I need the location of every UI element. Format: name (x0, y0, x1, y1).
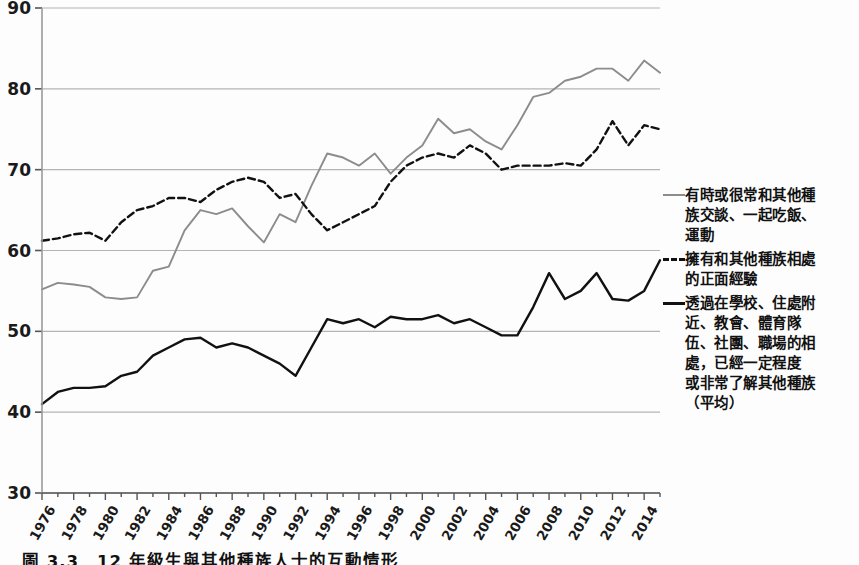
x-axis-tick-label: 1978 (58, 503, 91, 544)
y-axis-tick-label: 60 (7, 241, 31, 261)
x-axis-tick-label: 1976 (26, 503, 59, 544)
x-axis-tick-label: 1990 (248, 503, 281, 544)
y-axis-tick-label: 70 (7, 160, 31, 180)
legend-item-talk-eat-sports: 有時或很常和其他種 族交談、一起吃飯、 運動 (663, 185, 859, 245)
y-axis-tick-label: 30 (7, 483, 31, 503)
x-axis-tick-label: 2000 (406, 503, 439, 544)
y-axis-tick-label: 40 (7, 402, 31, 422)
x-axis-tick-label: 1986 (184, 503, 217, 544)
legend-item-label: 擁有和其他種族相處 (685, 251, 816, 267)
legend-item-label: 伍、社團、職場的相 (685, 335, 816, 351)
x-axis-tick-label: 1994 (311, 503, 344, 544)
data-series-group (42, 61, 660, 405)
x-axis-tick-label: 1982 (121, 503, 154, 544)
figure-caption: 圖 3.3 12 年級生與其他種族人士的互動情形 (22, 548, 722, 565)
legend-item-label: 的正面經驗 (685, 271, 758, 287)
data-series-line-0 (42, 61, 660, 299)
x-axis-tick-label: 1988 (216, 503, 249, 544)
y-axis-tick-labels-group: 30405060708090 (7, 0, 31, 503)
x-axis-tick-label: 2008 (533, 503, 566, 544)
legend-item-label: （平均） (685, 395, 743, 411)
chart-legend: 有時或很常和其他種 族交談、一起吃飯、 運動 擁有和其他種族相處 的正面經驗 透… (663, 185, 859, 417)
legend-item-knowing-other-races: 透過在學校、住處附 近、教會、體育隊 伍、社團、職場的相 處，已經一定程度 或非… (663, 293, 859, 413)
x-axis-tick-label: 2002 (438, 503, 471, 544)
y-axis-tick-label: 50 (7, 321, 31, 341)
legend-item-label: 運動 (685, 227, 714, 243)
legend-item-label: 族交談、一起吃飯、 (685, 207, 816, 223)
y-axis-tick-label: 80 (7, 79, 31, 99)
legend-item-label: 透過在學校、住處附 (685, 295, 816, 311)
solid-gray-line-icon (663, 185, 685, 205)
legend-item-positive-experience: 擁有和其他種族相處 的正面經驗 (663, 249, 859, 289)
dashed-black-line-icon (663, 249, 685, 269)
x-axis-tick-label: 2014 (628, 503, 661, 544)
data-series-line-2 (42, 260, 660, 404)
x-axis-tick-label: 1984 (153, 503, 186, 544)
x-axis-tick-label: 2004 (470, 503, 503, 544)
figure-container: 30405060708090 1976197819801982198419861… (0, 0, 859, 565)
data-series-line-1 (42, 121, 660, 241)
x-axis-tick-label: 2006 (501, 503, 534, 544)
x-axis-tick-label: 1996 (343, 503, 376, 544)
legend-item-label: 有時或很常和其他種 (685, 187, 816, 203)
x-axis-tick-label: 1998 (375, 503, 408, 544)
x-axis-tick-label: 1980 (89, 503, 122, 544)
legend-item-label: 或非常了解其他種族 (685, 375, 816, 391)
y-axis-tick-label: 90 (7, 0, 31, 18)
legend-item-label: 處，已經一定程度 (685, 353, 816, 373)
solid-black-line-icon (663, 293, 685, 313)
x-axis-tick-label: 1992 (279, 503, 312, 544)
legend-item-label: 近、教會、體育隊 (685, 313, 816, 333)
x-axis-tick-labels-group: 1976197819801982198419861988199019921994… (26, 503, 661, 544)
x-axis-tick-label: 2012 (596, 503, 629, 544)
x-axis-tick-marks-group (42, 493, 660, 500)
x-axis-tick-label: 2010 (565, 503, 598, 544)
